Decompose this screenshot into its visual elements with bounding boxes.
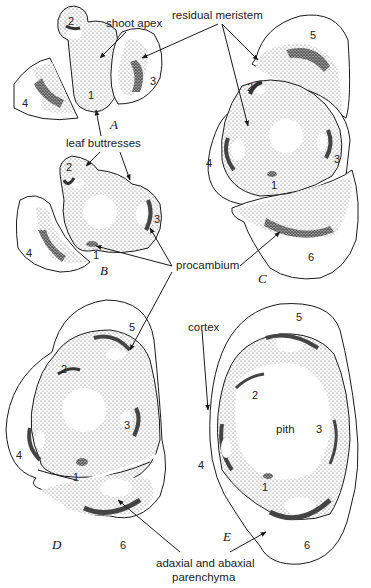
leaf-number-a-3: 3 [150, 76, 156, 87]
leaf-number-b-2: 2 [66, 162, 72, 173]
leaf-number-d-2: 2 [61, 364, 67, 375]
panel-letter-a: A [110, 118, 118, 131]
leaf-number-d-4: 4 [16, 450, 22, 461]
leaf-number-d-3: 3 [124, 420, 130, 431]
leaf-number-c-5: 5 [310, 30, 316, 41]
leaf-number-e-6: 6 [304, 540, 310, 551]
leaf-number-d-6: 6 [120, 540, 126, 551]
leaf-number-d-1: 1 [73, 472, 79, 483]
leaf-number-e-1: 1 [262, 482, 268, 493]
leaf-number-e-4: 4 [198, 460, 204, 471]
panel-b-section [16, 156, 161, 272]
label-parenchyma-line2: parenchyma [172, 572, 235, 584]
label-procambium: procambium [176, 260, 239, 272]
panel-letter-c: C [258, 272, 267, 285]
diagram-canvas [0, 0, 371, 588]
leaf-number-a-4: 4 [22, 98, 28, 109]
leaf-number-e-5: 5 [296, 312, 302, 323]
leaf-number-c-1: 1 [271, 180, 277, 191]
leaf-number-b-3: 3 [154, 214, 160, 225]
leaf-number-b-4: 4 [26, 248, 32, 259]
label-leaf-buttresses: leaf buttresses [66, 138, 141, 150]
panel-letter-e: E [223, 530, 231, 543]
leaf-number-c-6: 6 [308, 252, 314, 263]
panel-letter-d: D [52, 538, 61, 551]
leaf-number-e-3: 3 [316, 424, 322, 435]
label-pith: pith [276, 424, 295, 436]
label-shoot-apex: shoot apex [106, 18, 162, 30]
leaf-number-c-2: 2 [247, 82, 253, 93]
leaf-number-c-4: 4 [206, 158, 212, 169]
leaf-number-e-2: 2 [252, 390, 258, 401]
label-cortex: cortex [188, 322, 219, 334]
panel-c-section [208, 15, 358, 279]
leaf-number-a-1: 1 [88, 90, 94, 101]
leaf-number-d-5: 5 [129, 322, 135, 333]
leaf-number-a-2: 2 [68, 16, 74, 27]
leaf-number-c-3: 3 [334, 154, 340, 165]
panel-letter-b: B [100, 264, 108, 277]
label-residual-meristem: residual meristem [172, 10, 263, 22]
leaf-number-b-1: 1 [93, 250, 99, 261]
panel-d-section [6, 300, 166, 518]
label-parenchyma-line1: adaxial and abaxial [156, 558, 254, 570]
